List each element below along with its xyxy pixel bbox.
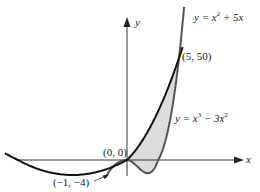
x-axis-arrow-icon (234, 157, 244, 164)
x-axis-label: x (246, 154, 251, 165)
point-label-origin: (0, 0) (103, 147, 127, 158)
cubic-label: y = x3 − 3x2 (175, 112, 228, 124)
parabola-label: y = x2 + 5x (194, 11, 244, 23)
point-label-5-50: (5, 50) (182, 51, 211, 62)
y-axis-label: y (135, 17, 140, 28)
chart-canvas (0, 0, 260, 192)
y-axis-arrow-icon (124, 17, 131, 27)
point-label-neg1-neg4: (−1, −4) (53, 177, 89, 188)
